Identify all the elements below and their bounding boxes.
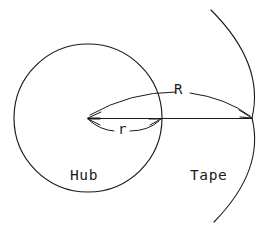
inner-radius-symbol-label: r bbox=[118, 121, 126, 137]
hub-label: Hub bbox=[70, 167, 98, 183]
R-arrowhead-right bbox=[239, 110, 252, 118]
diagram-svg: Hub Tape R r bbox=[0, 0, 269, 232]
R-arrow-stem-right bbox=[190, 93, 250, 116]
diagram-canvas: Hub Tape R r bbox=[0, 0, 269, 232]
tape-label: Tape bbox=[190, 167, 227, 183]
outer-radius-symbol-label: R bbox=[174, 81, 183, 97]
R-arrow-stem-left bbox=[90, 92, 176, 115]
